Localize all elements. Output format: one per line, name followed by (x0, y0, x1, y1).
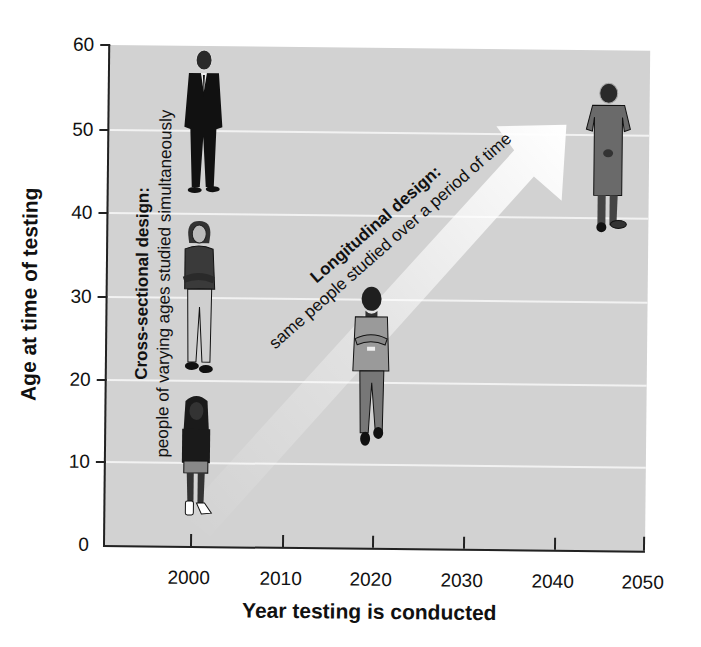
girl-figure-icon (173, 393, 220, 523)
xtick-label-2000: 2000 (154, 567, 224, 590)
figure: 60 50 40 30 20 10 0 2000 2010 2020 2030 … (0, 0, 701, 647)
older-woman-figure-icon (583, 77, 635, 238)
ytick-label-0: 0 (49, 534, 89, 554)
ytick-label-20: 20 (51, 369, 91, 389)
ytick-label-60: 60 (54, 34, 94, 54)
xtick-label-2050: 2050 (608, 571, 678, 594)
xtick-label-2040: 2040 (518, 570, 588, 593)
ytick-label-50: 50 (53, 119, 93, 139)
ytick-label-40: 40 (52, 202, 92, 222)
ytick-label-30: 30 (51, 286, 91, 306)
xtick-label-2030: 2030 (427, 569, 497, 592)
xtick-label-2020: 2020 (336, 568, 406, 591)
young-woman-figure-icon (174, 217, 226, 378)
adult-woman-figure-icon (346, 283, 398, 454)
ytick-label-10: 10 (50, 451, 90, 471)
y-axis-label: Age at time of testing (17, 187, 43, 401)
x-axis-label: Year testing is conducted (242, 598, 497, 625)
xtick-label-2010: 2010 (246, 568, 316, 591)
older-man-figure-icon (178, 47, 230, 198)
cross-sectional-annotation: Cross-sectional design: people of varyin… (130, 109, 178, 457)
